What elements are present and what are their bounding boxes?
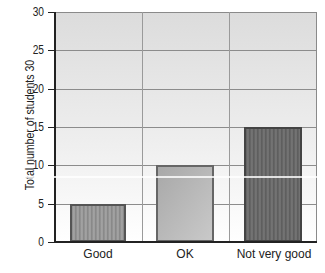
- x-label-good: Good: [62, 247, 134, 261]
- gridline-20: [54, 89, 316, 90]
- y-tick: [48, 12, 54, 13]
- y-tick: [48, 204, 54, 205]
- y-tick-label: 30: [24, 5, 44, 19]
- x-axis: [54, 241, 317, 243]
- y-tick: [48, 50, 54, 51]
- gridline-25: [54, 50, 316, 51]
- y-tick: [48, 127, 54, 128]
- y-tick: [48, 242, 54, 243]
- x-label-not-very-good: Not very good: [228, 247, 320, 261]
- vertical-gridline-2: [229, 12, 230, 242]
- y-axis-title: Total number of students 30: [23, 46, 37, 204]
- y-tick: [48, 165, 54, 166]
- x-label-ok: OK: [149, 247, 221, 261]
- y-tick: [48, 89, 54, 90]
- scan-artifact-line: [0, 176, 325, 178]
- bar-good: [70, 204, 126, 242]
- vertical-gridline-1: [142, 12, 143, 242]
- y-axis: [54, 12, 56, 243]
- y-tick-label: 0: [24, 235, 44, 249]
- bar-not-very-good: [244, 127, 302, 242]
